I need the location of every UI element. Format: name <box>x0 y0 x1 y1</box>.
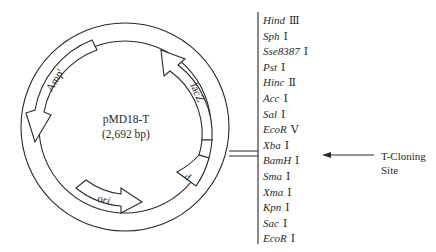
mcs-site-list: HindⅢ SphⅠ Sse8387Ⅰ PstⅠ HincⅡ AccⅠ SalⅠ… <box>263 13 308 247</box>
amp-resistance-arrow <box>26 40 97 142</box>
mcs-site: SmaⅠ <box>263 169 308 185</box>
plasmid-size: (2,692 bp) <box>90 127 162 141</box>
mcs-site: XmaⅠ <box>263 185 308 201</box>
mcs-site: AccⅠ <box>263 91 308 107</box>
mcs-site: KpnⅠ <box>263 200 308 216</box>
mcs-site: SphⅠ <box>263 29 308 45</box>
plasmid-map: Ampr lacZ ori P <box>0 0 436 252</box>
t-cloning-site-label: T-Cloning Site <box>381 149 436 177</box>
mcs-site: EcoRⅠ <box>263 231 308 247</box>
plasmid-name: pMD18-T <box>90 112 162 126</box>
promoter-box <box>177 155 209 186</box>
mcs-site: HincⅡ <box>263 75 308 91</box>
cloning-site-arrowhead-icon <box>322 152 331 158</box>
mcs-site: XbaⅠ <box>263 138 308 154</box>
mcs-site: SacⅠ <box>263 216 308 232</box>
mcs-site: Sse8387Ⅰ <box>263 44 308 60</box>
mcs-site-cloning: EcoRⅤ <box>263 122 308 138</box>
mcs-site: PstⅠ <box>263 60 308 76</box>
mcs-site: SalⅠ <box>263 107 308 123</box>
mcs-site: BamHⅠ <box>263 153 308 169</box>
mcs-site: HindⅢ <box>263 13 308 29</box>
